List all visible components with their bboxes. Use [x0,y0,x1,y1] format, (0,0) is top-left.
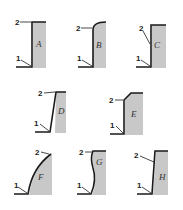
profiles-diagram: 2 1 A 2 1 B 2 1 C 2 1 D 2 1 [0,0,183,210]
marker-1: 1 [110,121,115,130]
panel-label: B [96,40,102,50]
leader-1 [82,187,90,193]
leader-1 [142,187,151,193]
panel-label: G [96,157,103,167]
leader-2 [41,152,49,154]
leader-1 [141,60,150,66]
panel-label: A [35,39,42,49]
panel-h: 2 1 H [134,151,168,195]
marker-2: 2 [76,24,81,33]
marker-2: 2 [15,18,20,27]
marker-1: 1 [137,181,142,190]
panel-label: E [130,109,137,119]
marker-1: 1 [77,54,82,63]
panel-f: 2 1 F [14,148,52,195]
leader-2 [143,31,150,44]
marker-2: 2 [35,148,40,157]
panel-g: 2 1 G [77,148,106,195]
panel-label: C [154,40,161,50]
leader-1 [21,60,31,66]
leader-2 [44,92,55,93]
panel-label: H [158,172,166,182]
marker-1: 1 [136,54,141,63]
leader-1 [18,187,27,193]
marker-2: 2 [38,89,43,98]
marker-2: 2 [109,96,114,105]
marker-1: 1 [16,54,21,63]
marker-1: 1 [14,181,19,190]
panel-b: 2 1 B [76,22,106,68]
marker-2: 2 [139,24,144,33]
panel-label: F [37,172,44,182]
panel-d: 2 1 D [34,89,66,133]
leader-1 [40,124,49,131]
leader-1 [116,126,123,133]
panel-e: 2 1 E [109,93,143,135]
marker-2: 2 [134,151,139,160]
leader-2 [140,156,154,162]
panel-c: 2 1 C [136,24,166,68]
leader-1 [82,60,92,66]
marker-1: 1 [77,181,82,190]
marker-1: 1 [34,119,39,128]
panel-label: D [57,106,65,116]
panel-a: 2 1 A [15,18,46,68]
marker-2: 2 [79,148,84,157]
